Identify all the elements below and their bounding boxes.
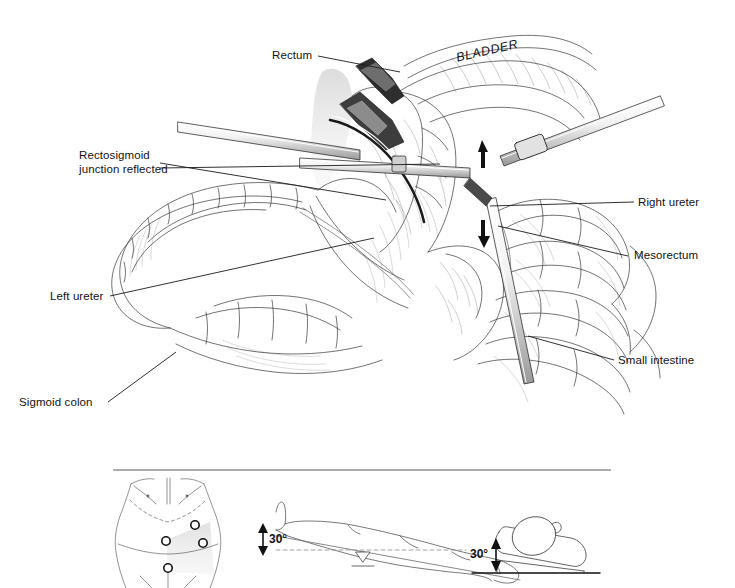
bowel-loop-lower-3 [196,307,340,330]
small-bowel-loop-4b [478,359,624,414]
angle-arrow-up-head [258,523,268,533]
label-small-intestine: Small intestine [618,354,694,368]
sigmoid-shading [130,218,160,276]
fascia-strokes [364,182,438,302]
inset-table-tilt [472,511,600,573]
torso-left-side [115,484,131,588]
port-marker-3 [199,539,207,547]
bolster-knob [507,511,561,561]
sigmoid-inner-2 [132,210,266,272]
bowel-lower-haustra [206,300,338,348]
label-rectum: Rectum [272,49,312,63]
fulcrum-triangle [356,552,370,562]
angle-arrow-down-head [258,546,268,556]
port-marker-2 [162,537,170,545]
angle-label-trendelenburg: 30° [269,532,287,546]
foot-connect [276,524,285,530]
small-bowel-loop-2b [502,265,626,310]
sigmoid-inner-1 [148,203,306,242]
mesentery-edge-upper [316,196,404,280]
bowel-loop-lower-1 [170,328,362,354]
mesorectum-texture [436,262,478,334]
label-rectosigmoid-line2: junction reflected [79,163,168,177]
shadow-wash-left [311,69,352,190]
leader-small-intestine [528,336,614,360]
bowel-loop-lower-4 [214,295,352,318]
rectum-detail-1 [422,128,448,150]
label-left-ureter: Left ureter [50,290,104,304]
bladder-dome [398,61,600,118]
port-marker-1 [191,521,199,529]
trocar-sleeve-right [514,133,548,160]
small-bowel-loop-1b [506,215,622,258]
label-sigmoid-colon: Sigmoid colon [19,396,93,410]
mesorectum-body [428,246,504,360]
ureter-tubes [300,184,511,298]
small-bowel-right-edge [612,304,630,354]
leader-sigmoid-colon [108,352,176,402]
main-illustration [0,0,735,588]
breast-left-curve [134,486,156,504]
angle-label-table-tilt: 30° [470,547,488,561]
nipple-right [186,495,189,498]
leader-right-ureter [490,202,634,206]
costal-margin-dashed [130,500,206,522]
label-rectosigmoid-line1: Rectosigmoid [79,149,150,163]
groin-right [184,576,196,588]
nipple-left [147,495,150,498]
label-mesorectum: Mesorectum [634,249,698,263]
label-right-ureter: Right ureter [638,196,699,210]
groin-left [140,576,152,588]
figure-canvas: Rectum BLADDER Rectosigmoid junction ref… [0,0,735,588]
breast-right-curve [179,486,201,504]
instrument-collar [392,156,406,172]
anatomy-group [112,35,664,414]
mesorectum-fold [446,254,482,318]
torso-shoulder-right [181,479,204,484]
small-bowel-scallops [536,200,581,386]
tilt-arrow-up-head [491,538,501,549]
mesentery-edge-mid [310,206,408,308]
torso-shoulder-left [131,479,154,484]
bladder-fold [418,85,584,118]
leader-mesorectum [498,226,628,256]
diagonal-instrument-tip [464,178,492,206]
port-marker-4 [164,564,172,572]
inset-port-placement [115,478,221,588]
inset-trendelenburg [258,502,520,583]
sigmoid-haustra [124,185,298,282]
